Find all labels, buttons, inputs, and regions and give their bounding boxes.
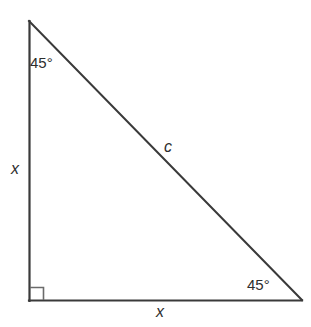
triangle-side-hypotenuse (29, 21, 302, 300)
side-label-vertical: x (11, 161, 19, 177)
triangle-figure: 45° 45° c x x (0, 0, 311, 327)
angle-label-bottom-right: 45° (247, 277, 270, 292)
angle-label-top: 45° (30, 55, 53, 70)
side-label-horizontal: x (156, 304, 164, 320)
side-label-hypotenuse: c (164, 139, 172, 155)
right-angle-marker-icon (30, 288, 44, 301)
